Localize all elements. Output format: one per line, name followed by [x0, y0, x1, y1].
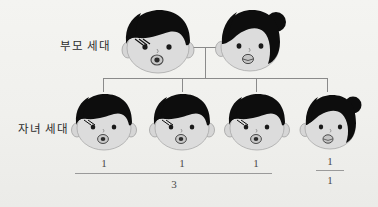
- left-group-rule: [75, 173, 272, 174]
- child-drop-line-1: [103, 78, 104, 92]
- descent-line: [205, 47, 206, 78]
- right-group-denominator: 1: [320, 174, 340, 186]
- child-count-4: 1: [320, 155, 340, 167]
- child-drop-line-2: [182, 78, 183, 92]
- left-group-total: 3: [164, 178, 184, 190]
- right-group-rule: [316, 170, 344, 171]
- child-count-2: 1: [172, 157, 192, 169]
- child-drop-line-3: [256, 78, 257, 92]
- child-count-3: 1: [246, 157, 266, 169]
- child-drop-line-4: [327, 78, 328, 92]
- child-figure-2: [146, 92, 218, 154]
- parent-generation-label: 부모 세대: [60, 37, 110, 53]
- child-figure-4: [297, 92, 367, 154]
- pedigree-diagram: 부모 세대 자녀 세대: [0, 0, 378, 207]
- child-generation-label: 자녀 세대: [18, 120, 68, 136]
- child-count-1: 1: [94, 157, 114, 169]
- mother-figure: [212, 8, 292, 76]
- child-figure-1: [68, 92, 140, 154]
- father-figure: [117, 8, 199, 76]
- child-figure-3: [221, 92, 293, 154]
- sibship-bar: [103, 78, 328, 79]
